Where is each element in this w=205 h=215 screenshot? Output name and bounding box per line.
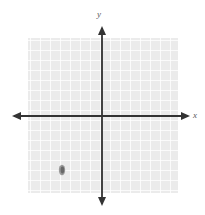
x-axis-right-arrow-icon — [181, 112, 190, 120]
plotted-point-core — [61, 167, 65, 174]
y-axis-label: y — [97, 10, 101, 19]
x-axis-label: x — [193, 111, 197, 120]
y-axis-down-arrow-icon — [98, 197, 106, 206]
y-axis-up-arrow-icon — [98, 26, 106, 35]
x-axis-left-arrow-icon — [12, 112, 21, 120]
coordinate-plane-figure: y x — [0, 0, 205, 215]
graph-canvas — [0, 0, 205, 215]
plotted-point-mark — [59, 165, 65, 175]
